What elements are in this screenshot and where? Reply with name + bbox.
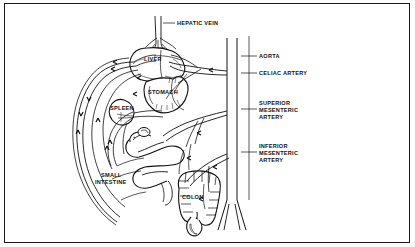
right-label-group: AORTA CELIAC ARTERY SUPERIOR MESENTERIC … [259,53,307,163]
superior-mesenteric-label-line3: ARTERY [259,114,283,120]
anatomy-diagram: LIVER STOMACH SPLEEN [5,4,411,244]
inferior-mesenteric-label-line3: ARTERY [259,157,283,163]
spleen-organ: SPLEEN [109,99,134,125]
figure-frame: LIVER STOMACH SPLEEN [4,3,410,243]
aorta-vessel [218,38,246,230]
small-intestine-label-line2: INTESTINE [95,179,126,185]
small-intestine-label-line1: SMALL [101,172,122,178]
top-label-group: HEPATIC VEIN [177,20,218,26]
inferior-mesenteric-label-line1: INFERIOR [259,143,288,149]
celiac-artery-label: CELIAC ARTERY [259,70,307,76]
stomach-label: STOMACH [148,89,178,95]
superior-mesenteric-label-line2: MESENTERIC [259,107,298,113]
hepatic-vein-label: HEPATIC VEIN [177,20,218,26]
spleen-label: SPLEEN [110,105,134,111]
inferior-mesenteric-label-line2: MESENTERIC [259,150,298,156]
superior-mesenteric-label-line1: SUPERIOR [259,100,290,106]
colon-organ: COLON [178,171,220,236]
stomach-organ: STOMACH [144,77,188,113]
hepatic-vein-vessel [143,16,176,53]
aorta-label: AORTA [259,53,280,59]
